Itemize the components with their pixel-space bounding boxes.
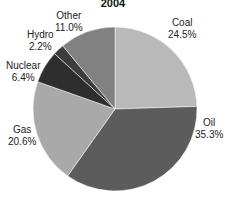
label-name: Nuclear [6,60,40,72]
label-value: 35.3% [195,129,223,141]
label-other: Other11.0% [55,10,83,34]
label-name: Oil [195,117,223,129]
label-coal: Coal24.5% [168,17,196,41]
label-value: 24.5% [168,29,196,41]
label-hydro: Hydro2.2% [27,29,54,53]
label-gas: Gas20.6% [8,124,36,148]
label-value: 6.4% [6,72,40,84]
label-name: Other [55,10,83,22]
label-value: 20.6% [8,136,36,148]
label-nuclear: Nuclear6.4% [6,60,40,84]
label-value: 2.2% [27,41,54,53]
label-name: Hydro [27,29,54,41]
label-oil: Oil35.3% [195,117,223,141]
label-name: Gas [8,124,36,136]
label-value: 11.0% [55,22,83,34]
label-name: Coal [168,17,196,29]
